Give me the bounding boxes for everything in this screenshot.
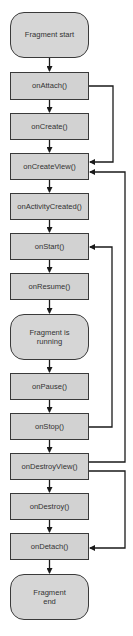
node-on-destroy: onDestroy() [10, 493, 89, 520]
node-on-stop: onStop() [10, 413, 89, 440]
node-fragment-running: Fragment is running [10, 314, 89, 360]
node-on-start: onStart() [10, 233, 89, 260]
node-on-attach: onAttach() [10, 72, 89, 100]
node-on-detach: onDetach() [10, 533, 89, 560]
node-on-activity-created: onActivityCreated() [10, 193, 89, 220]
node-on-destroy-view: onDestroyView() [10, 453, 89, 480]
node-on-resume: onResume() [10, 273, 89, 300]
node-fragment-end: Fragment end [10, 574, 89, 620]
node-on-create: onCreate() [10, 113, 89, 140]
node-fragment-start: Fragment start [10, 12, 89, 58]
node-on-pause: onPause() [10, 373, 89, 400]
node-on-create-view: onCreateView() [10, 153, 89, 180]
